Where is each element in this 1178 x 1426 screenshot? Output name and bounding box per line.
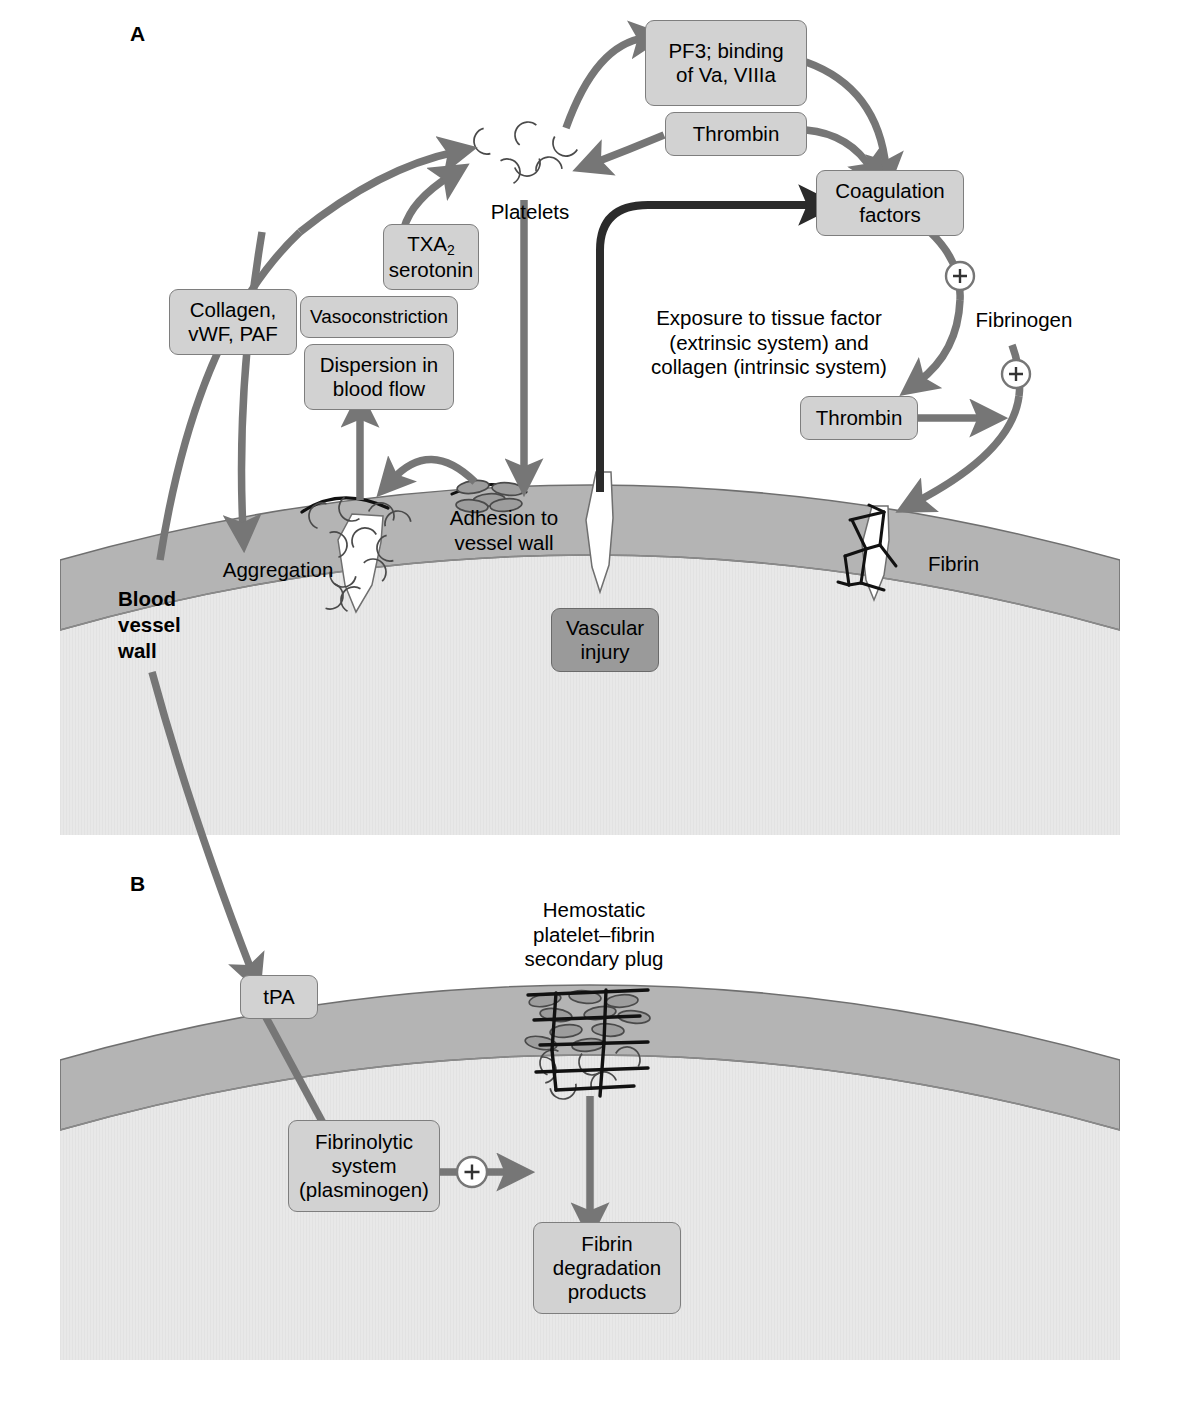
label-platelets: Platelets [470, 200, 590, 225]
panel-label-a: A [130, 22, 145, 46]
plus-circle-group-B [457, 1157, 487, 1187]
label-aggregation: Aggregation [214, 558, 342, 583]
label-fibrinogen: Fibrinogen [954, 308, 1094, 333]
label-fibrin: Fibrin [928, 552, 1028, 577]
txa2-label: TXA2 [407, 232, 455, 258]
box-vascular-injury[interactable]: Vascular injury [551, 608, 659, 672]
box-thrombin-lower[interactable]: Thrombin [800, 396, 918, 440]
box-thrombin-top[interactable]: Thrombin [665, 112, 807, 156]
label-hemostatic-plug: Hemostatic platelet–fibrin secondary plu… [486, 898, 702, 972]
label-adhesion-vessel-wall: Adhesion to vessel wall [432, 506, 576, 555]
box-vasoconstriction[interactable]: Vasoconstriction [300, 296, 458, 338]
box-pf3-binding[interactable]: PF3; binding of Va, VIIIa [645, 20, 807, 106]
box-txa2-serotonin[interactable]: TXA2 serotonin [383, 224, 479, 290]
label-exposure-tissue-factor: Exposure to tissue factor (extrinsic sys… [628, 306, 910, 380]
figure-canvas: A B PF3; binding of Va, VIIIa Thrombin C… [0, 0, 1178, 1426]
box-tpa[interactable]: tPA [240, 975, 318, 1019]
label-blood-vessel-wall: Blood vessel wall [118, 586, 214, 665]
box-collagen-vwf-paf[interactable]: Collagen, vWF, PAF [169, 289, 297, 355]
box-dispersion-blood-flow[interactable]: Dispersion in blood flow [304, 344, 454, 410]
box-coagulation-factors[interactable]: Coagulation factors [816, 170, 964, 236]
panel-label-b: B [130, 872, 145, 896]
serotonin-label: serotonin [389, 258, 473, 282]
box-fibrin-degradation-products[interactable]: Fibrin degradation products [533, 1222, 681, 1314]
platelet-free-cluster [471, 117, 577, 184]
box-fibrinolytic-system[interactable]: Fibrinolytic system (plasminogen) [288, 1120, 440, 1212]
